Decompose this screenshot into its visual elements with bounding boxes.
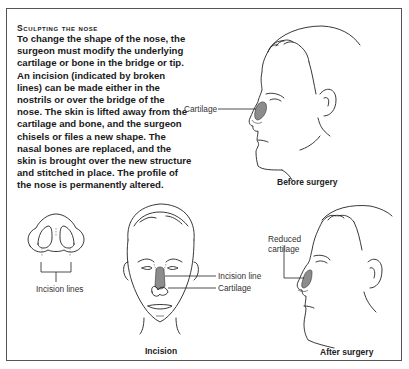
before-surgery-caption: Before surgery (277, 177, 337, 187)
incision-caption: Incision (145, 346, 177, 356)
illustrations (0, 0, 409, 369)
nose-underside-illustration (28, 214, 84, 282)
incision-lines-label: Incision lines (36, 284, 84, 294)
before-cartilage-label: Cartilage (184, 104, 217, 114)
after-surgery-caption: After surgery (320, 347, 373, 357)
incision-line-label: Incision line (218, 271, 261, 281)
reduced-cartilage-label-line1: Reduced (268, 234, 301, 244)
incision-cartilage-label: Cartilage (218, 283, 251, 293)
reduced-cartilage-label-line2: cartilage (268, 244, 299, 254)
after-profile-illustration (284, 206, 392, 348)
before-profile-illustration (218, 26, 360, 180)
front-face-illustration (124, 204, 217, 334)
